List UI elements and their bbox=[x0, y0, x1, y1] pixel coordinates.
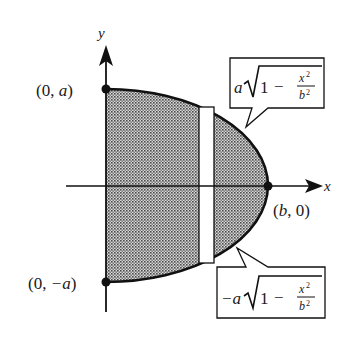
point-top bbox=[102, 85, 111, 94]
point-bottom bbox=[102, 278, 111, 287]
x-axis-label: x bbox=[323, 178, 331, 194]
callout-upper-den-exp: 2 bbox=[306, 88, 310, 97]
callout-upper-minus: − bbox=[274, 77, 284, 96]
callout-lower-den-exp: 2 bbox=[306, 299, 310, 308]
callout-lower-coef: −a bbox=[221, 289, 241, 308]
callout-upper-num-exp: 2 bbox=[306, 70, 310, 79]
diagram-canvas: y x (0, a) (0, −a) (b, 0) a 1 − x 2 b 2 … bbox=[0, 0, 343, 338]
callout-lower-minus: − bbox=[274, 288, 284, 307]
label-right-point: (b, 0) bbox=[273, 201, 310, 220]
callout-lower-num: x bbox=[298, 282, 305, 296]
callout-upper-den: b bbox=[299, 88, 305, 102]
callout-lower-den: b bbox=[299, 299, 305, 313]
point-right bbox=[264, 182, 273, 191]
label-top-point: (0, a) bbox=[36, 81, 73, 100]
vertical-strip bbox=[199, 107, 214, 263]
callout-lower: −a 1 − x 2 b 2 bbox=[217, 248, 325, 318]
callout-upper: a 1 − x 2 b 2 bbox=[230, 58, 324, 127]
callout-lower-one: 1 bbox=[260, 289, 269, 308]
callout-upper-num: x bbox=[298, 71, 305, 85]
callout-upper-coef: a bbox=[234, 78, 243, 97]
y-axis-label: y bbox=[96, 25, 105, 41]
callout-lower-num-exp: 2 bbox=[306, 281, 310, 290]
label-bottom-point: (0, −a) bbox=[28, 274, 76, 293]
callout-upper-one: 1 bbox=[260, 78, 269, 97]
